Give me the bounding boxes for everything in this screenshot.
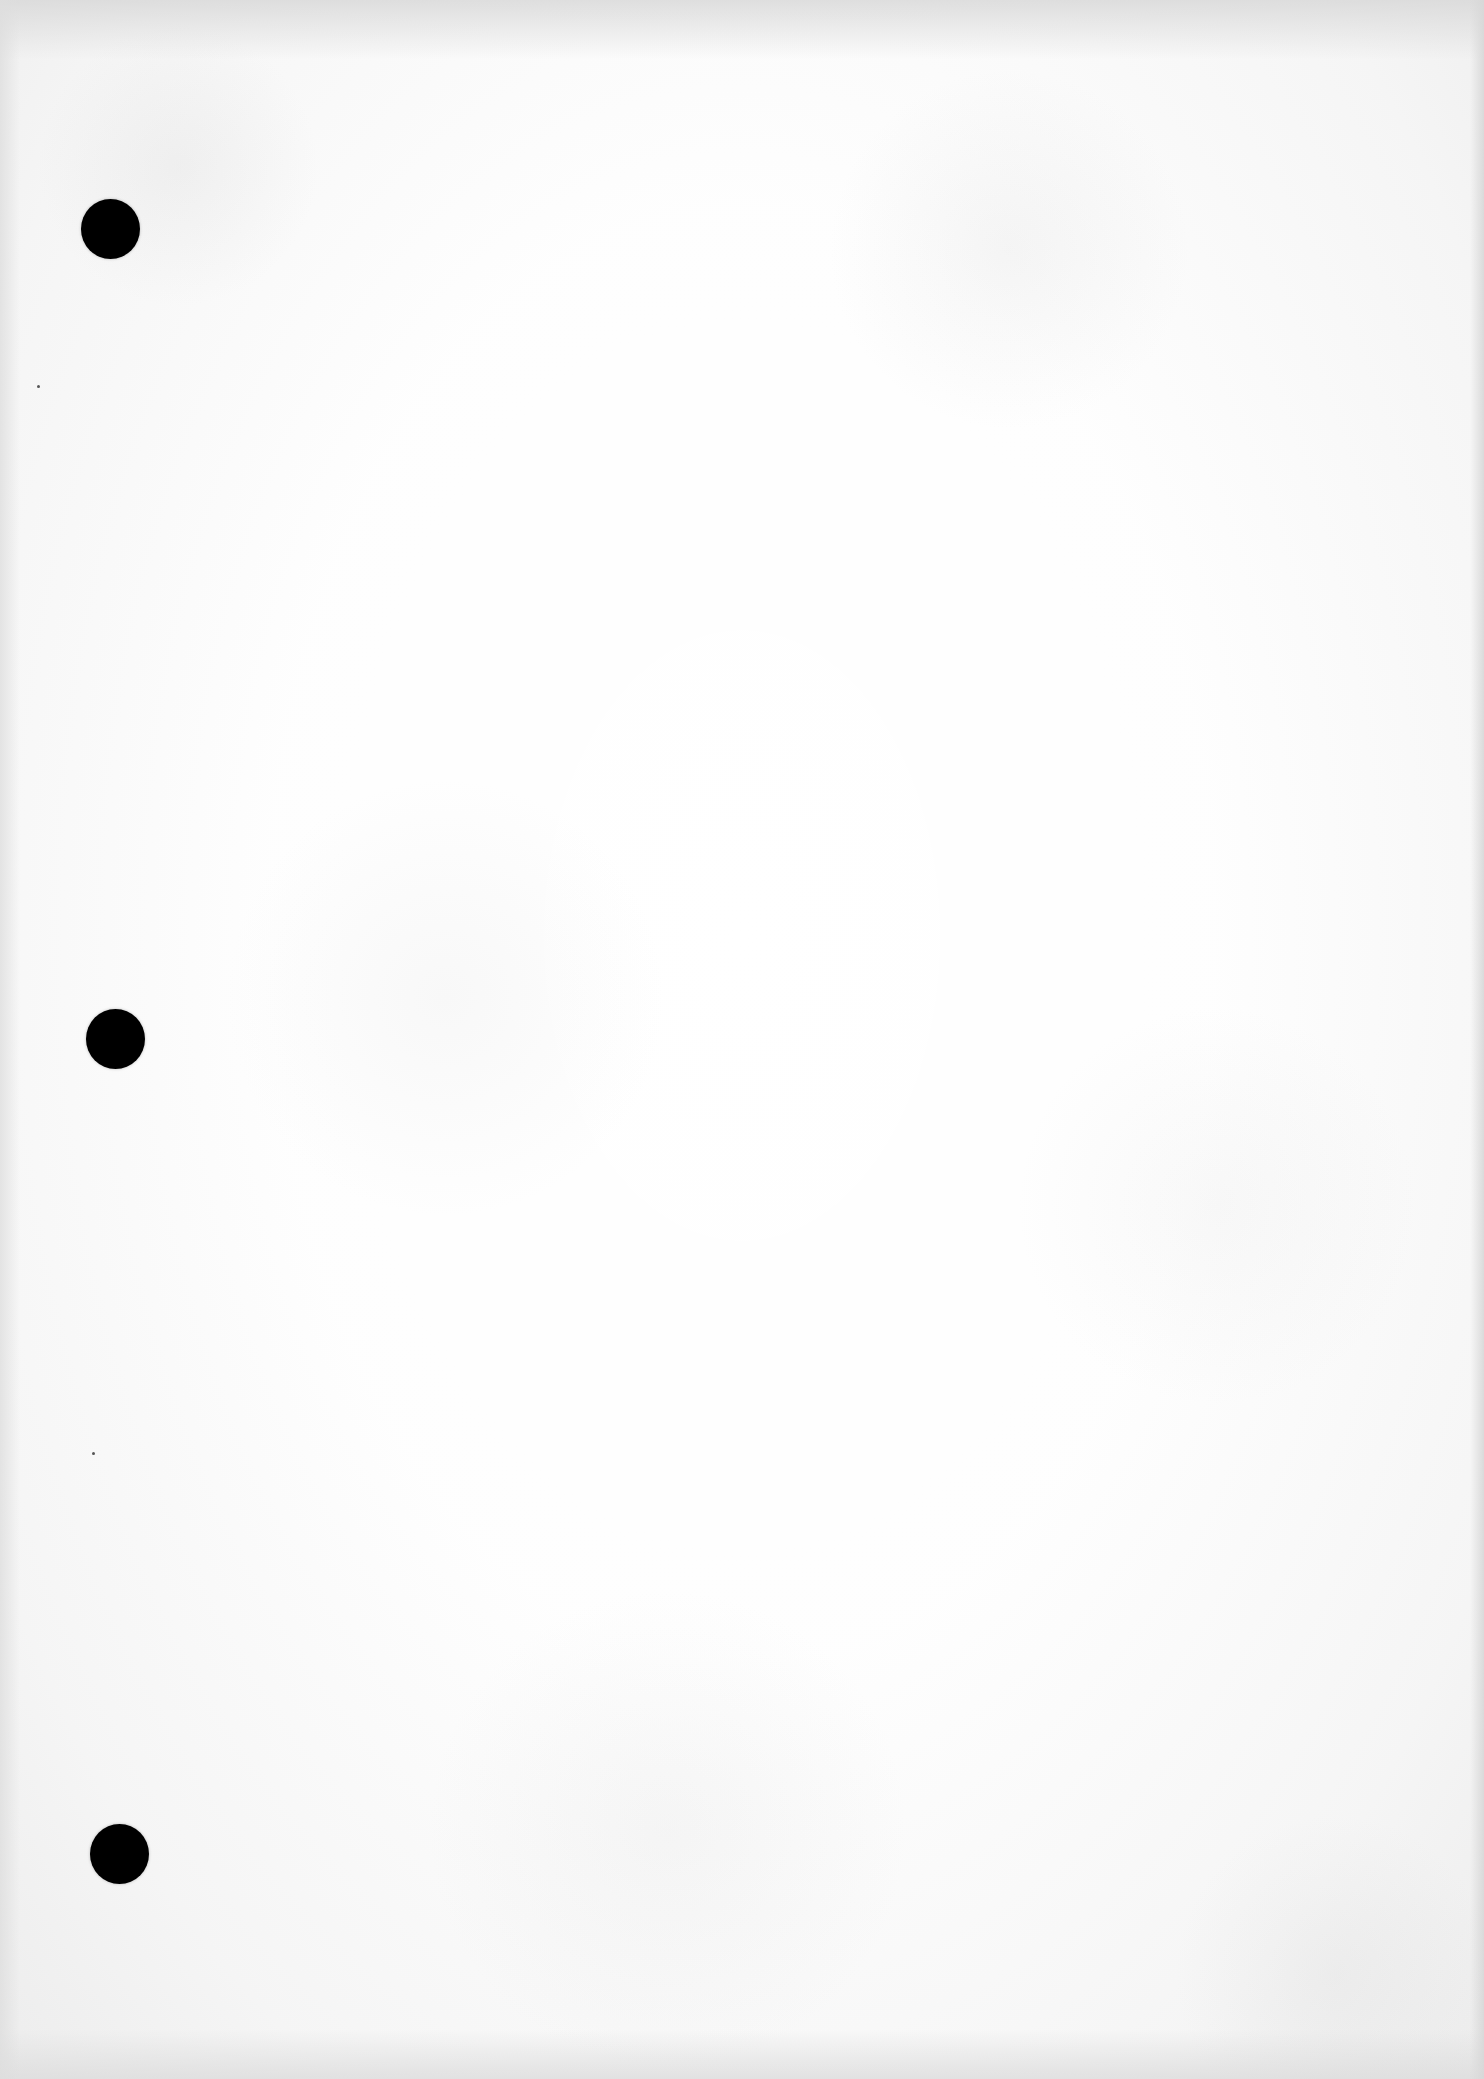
punch-hole-middle: middle-hole (86, 1009, 145, 1069)
dust-speck (37, 385, 40, 388)
scan-edge-shadow-top (0, 0, 1484, 60)
punch-hole-label: middle-hole (86, 1009, 87, 1010)
paper-texture (0, 0, 1484, 2079)
scan-edge-shadow-left (0, 0, 20, 2079)
blank-paper-sheet: top-hole middle-hole bottom-hole (0, 0, 1484, 2079)
punch-hole-bottom: bottom-hole (90, 1824, 149, 1884)
dust-speck (92, 1452, 95, 1455)
punch-hole-top: top-hole (81, 199, 140, 259)
scan-edge-shadow-bottom (0, 2029, 1484, 2079)
punch-hole-label: top-hole (81, 199, 82, 200)
scan-edge-shadow-right (1470, 0, 1484, 2079)
punch-hole-label: bottom-hole (90, 1824, 91, 1825)
